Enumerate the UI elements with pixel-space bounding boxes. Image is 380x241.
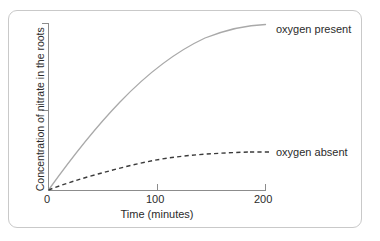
curve-oxygen-absent [49, 152, 251, 190]
x-tick-label-200: 200 [254, 194, 272, 205]
figure-root: 0 100 200 Time (minutes) Concentration o… [0, 0, 380, 241]
plot-canvas [0, 0, 380, 241]
x-tick-label-0: 0 [44, 194, 50, 205]
series-label-oxygen-present: oxygen present [276, 24, 351, 35]
curve-oxygen-present [49, 25, 266, 191]
x-tick-label-100: 100 [146, 194, 164, 205]
y-axis-title: Concentration of nitrate in the roots [35, 24, 46, 194]
x-axis-title: Time (minutes) [48, 209, 266, 220]
series-label-oxygen-absent: oxygen absent [276, 147, 348, 158]
